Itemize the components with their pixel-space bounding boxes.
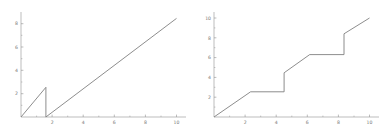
left-x-tick-labels: 2 4 6 8 10 [51, 120, 180, 125]
y-tick-label: 2 [208, 95, 211, 100]
right-x-major-ticks [245, 115, 369, 117]
y-tick-label: 6 [208, 55, 211, 60]
y-tick-label: 10 [205, 16, 211, 21]
right-data-line [214, 18, 370, 117]
right-y-tick-labels: 2 4 6 8 10 [205, 16, 211, 100]
left-plot-svg: 2 4 6 8 10 2 4 6 8 [0, 0, 193, 127]
left-x-major-ticks [52, 115, 176, 117]
x-tick-label: 6 [306, 120, 309, 125]
y-tick-label: 4 [15, 68, 18, 73]
left-data-line [21, 18, 177, 117]
x-tick-label: 2 [244, 120, 247, 125]
x-tick-label: 10 [174, 120, 180, 125]
right-y-major-ticks [214, 18, 216, 97]
right-plot-svg: 2 4 6 8 10 2 4 6 8 10 [193, 0, 386, 127]
x-tick-label: 10 [367, 120, 373, 125]
y-tick-label: 2 [15, 91, 18, 96]
y-tick-label: 6 [15, 45, 18, 50]
left-y-tick-labels: 2 4 6 8 [15, 21, 18, 96]
figure-container: 2 4 6 8 10 2 4 6 8 [0, 0, 386, 127]
right-x-tick-labels: 2 4 6 8 10 [244, 120, 373, 125]
y-tick-label: 8 [15, 21, 18, 26]
x-tick-label: 4 [275, 120, 278, 125]
y-tick-label: 4 [208, 75, 211, 80]
chart-panel-right: 2 4 6 8 10 2 4 6 8 10 [193, 0, 386, 127]
x-tick-label: 2 [51, 120, 54, 125]
x-tick-label: 4 [82, 120, 85, 125]
x-tick-label: 8 [337, 120, 340, 125]
y-tick-label: 8 [208, 36, 211, 41]
chart-panel-left: 2 4 6 8 10 2 4 6 8 [0, 0, 193, 127]
x-tick-label: 6 [113, 120, 116, 125]
x-tick-label: 8 [144, 120, 147, 125]
